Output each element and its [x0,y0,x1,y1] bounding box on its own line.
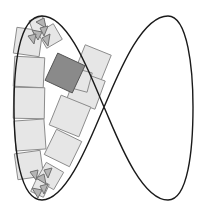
packed-square [13,87,45,119]
packed-square [13,56,45,88]
packed-squares [13,16,111,197]
figure-eight-diagram [0,0,203,214]
packed-square [14,119,46,151]
